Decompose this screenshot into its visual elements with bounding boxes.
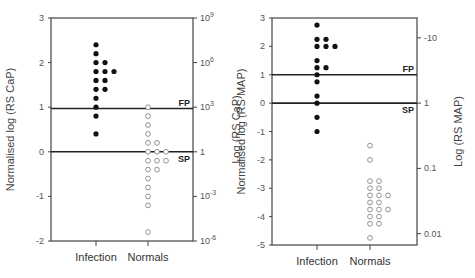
data-point <box>314 79 319 84</box>
data-point <box>102 69 107 74</box>
data-point <box>93 114 98 119</box>
plot-frame <box>51 18 193 241</box>
data-point <box>111 69 116 74</box>
data-point <box>93 96 98 101</box>
data-point <box>314 65 319 70</box>
right-tick-label: 10-3 <box>200 189 216 201</box>
y-tick-label: 3 <box>260 13 265 23</box>
data-point <box>377 200 382 205</box>
y-tick-label: -2 <box>257 155 265 165</box>
data-point <box>93 60 98 65</box>
data-point <box>314 22 319 27</box>
x-category-label: Normals <box>350 255 391 267</box>
data-point <box>102 60 107 65</box>
data-point <box>368 221 373 226</box>
data-point <box>377 179 382 184</box>
data-point <box>368 236 373 241</box>
y-tick-label: 2 <box>39 58 44 68</box>
data-point <box>314 115 319 120</box>
y-tick-label: 1 <box>260 70 265 80</box>
chart-panel-1: -2-10123109106103110-310-6FPSPInfectionN… <box>4 11 242 263</box>
y-tick-label: 3 <box>39 13 44 23</box>
right-tick-label: 109 <box>200 11 214 23</box>
right-tick-label: 10-6 <box>200 234 216 246</box>
data-point <box>155 140 160 145</box>
data-point <box>93 105 98 110</box>
y-tick-label: -5 <box>257 240 265 250</box>
data-point <box>146 185 151 190</box>
data-point <box>332 44 337 49</box>
data-point <box>146 158 151 163</box>
data-point <box>93 51 98 56</box>
y-tick-label: -1 <box>257 127 265 137</box>
data-point <box>368 200 373 205</box>
data-point <box>314 101 319 106</box>
y-tick-label: -4 <box>257 212 265 222</box>
right-tick-label: 0.01 <box>424 229 442 239</box>
data-point <box>146 149 151 154</box>
series-normals <box>368 143 391 240</box>
data-point <box>368 193 373 198</box>
threshold-label-sp: SP <box>178 154 190 164</box>
series-infection <box>314 22 337 134</box>
data-point <box>377 214 382 219</box>
data-point <box>155 158 160 163</box>
data-point <box>93 78 98 83</box>
data-point <box>93 69 98 74</box>
y-tick-label: 1 <box>39 102 44 112</box>
data-point <box>93 131 98 136</box>
y-tick-label: 0 <box>260 98 265 108</box>
data-point <box>155 149 160 154</box>
chart-panel-2: -5-4-3-2-10123-1010.10.01FPSPInfectionNo… <box>235 13 464 267</box>
data-point <box>368 186 373 191</box>
data-point <box>377 207 382 212</box>
series-infection <box>93 42 116 136</box>
data-point <box>146 230 151 235</box>
data-point <box>102 78 107 83</box>
y-tick-label: -2 <box>36 236 44 246</box>
y-tick-label: -1 <box>36 191 44 201</box>
data-point <box>377 221 382 226</box>
data-point <box>323 44 328 49</box>
data-point <box>314 44 319 49</box>
data-point <box>377 186 382 191</box>
data-point <box>146 132 151 137</box>
y-tick-label: 2 <box>260 41 265 51</box>
data-point <box>368 179 373 184</box>
right-tick-label: -10 <box>424 33 437 43</box>
data-point <box>155 167 160 172</box>
data-point <box>314 72 319 77</box>
data-point <box>93 87 98 92</box>
y-axis-label: Normalised log (RS MAP) <box>235 69 247 195</box>
data-point <box>146 105 151 110</box>
x-category-label: Infection <box>75 251 117 263</box>
data-point <box>386 193 391 198</box>
data-point <box>386 207 391 212</box>
data-point <box>146 140 151 145</box>
y-tick-label: 0 <box>39 147 44 157</box>
x-category-label: Normals <box>128 251 169 263</box>
data-point <box>102 87 107 92</box>
data-point <box>323 65 328 70</box>
threshold-label-fp: FP <box>402 64 414 74</box>
data-point <box>146 203 151 208</box>
data-point <box>323 37 328 42</box>
right-tick-label: 106 <box>200 56 214 68</box>
data-point <box>314 58 319 63</box>
data-point <box>164 158 169 163</box>
data-point <box>314 37 319 42</box>
threshold-label-fp: FP <box>178 98 190 108</box>
data-point <box>368 157 373 162</box>
data-point <box>377 193 382 198</box>
plot-frame <box>272 18 417 245</box>
data-point <box>314 93 319 98</box>
y-axis-label: Normalised log (RS CaP) <box>4 68 16 191</box>
y-tick-label: -3 <box>257 183 265 193</box>
right-tick-label: 1 <box>424 98 429 108</box>
data-point <box>93 42 98 47</box>
y-axis-right-label: Log (RS MAP) <box>452 96 464 167</box>
data-point <box>368 207 373 212</box>
right-tick-label: 0.1 <box>424 163 437 173</box>
data-point <box>146 114 151 119</box>
chart-canvas: -2-10123109106103110-310-6FPSPInfectionN… <box>0 0 475 278</box>
